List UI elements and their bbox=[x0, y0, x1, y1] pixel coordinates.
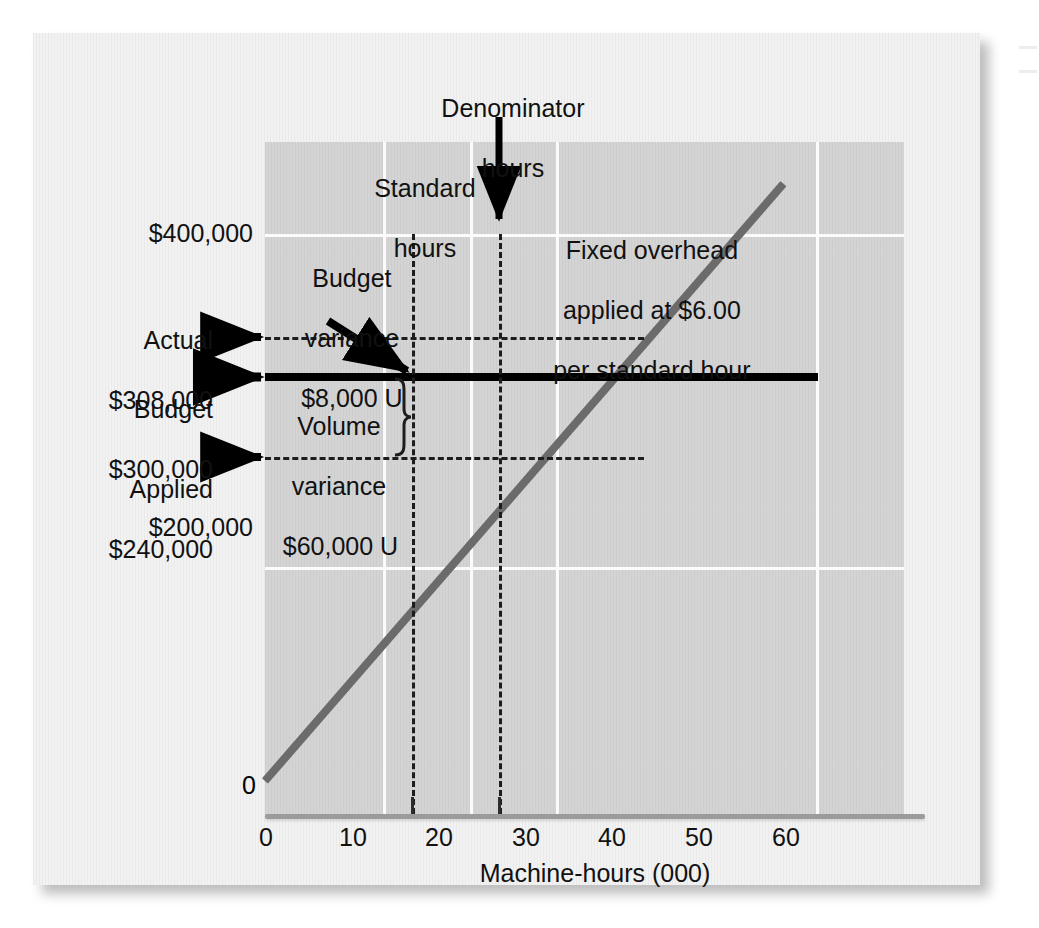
budget-variance-line2: variance bbox=[305, 324, 400, 352]
actual-label-name: Actual bbox=[144, 326, 213, 354]
volume-variance-line2: variance bbox=[292, 472, 387, 500]
x-tick-label-10: 10 bbox=[323, 823, 383, 852]
budget-variance-line1: Budget bbox=[312, 264, 391, 292]
applied-label-amount: $240,000 bbox=[109, 535, 213, 563]
applied-label-name: Applied bbox=[130, 475, 213, 503]
x-tick-label-0: 0 bbox=[236, 823, 296, 852]
standard-hours-dashed-line bbox=[412, 234, 415, 814]
axis-tick-50 bbox=[498, 797, 501, 814]
applied-rate-line1: Fixed overhead bbox=[566, 236, 738, 264]
origin-label: 0 bbox=[242, 771, 256, 801]
x-tick-label-50: 50 bbox=[669, 823, 729, 852]
volume-variance-line3: $60,000 U bbox=[283, 532, 398, 560]
applied-label: Applied $240,000 bbox=[33, 444, 213, 594]
x-tick-label-60: 60 bbox=[756, 823, 816, 852]
x-tick-label-40: 40 bbox=[582, 823, 642, 852]
x-axis-title: Machine-hours (000) bbox=[265, 859, 925, 888]
volume-variance-callout: Volume variance $60,000 U bbox=[255, 381, 395, 591]
figure-panel: $400,000 $200,000 0 0 10 20 30 40 50 60 … bbox=[33, 33, 980, 885]
x-tick-label-30: 30 bbox=[496, 823, 556, 852]
page-margin-mark bbox=[1019, 40, 1037, 110]
budget-label-name: Budget bbox=[134, 395, 213, 423]
axis-tick-40 bbox=[411, 797, 414, 814]
volume-variance-line1: Volume bbox=[297, 412, 380, 440]
applied-rate-line3: per standard hour bbox=[553, 356, 750, 384]
standard-hours-line1: Standard bbox=[374, 174, 475, 202]
applied-rate-callout: Fixed overhead applied at $6.00 per stan… bbox=[513, 205, 763, 415]
denominator-hours-line1: Denominator bbox=[441, 94, 584, 122]
y-tick-label-400000: $400,000 bbox=[53, 219, 253, 248]
applied-rate-line2: applied at $6.00 bbox=[563, 296, 741, 324]
x-tick-label-20: 20 bbox=[409, 823, 469, 852]
denominator-hours-dashed-line bbox=[499, 234, 502, 814]
x-axis-line bbox=[265, 814, 925, 819]
gridline-vertical-60 bbox=[816, 142, 819, 816]
